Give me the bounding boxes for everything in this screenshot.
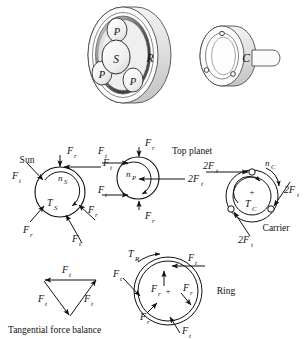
ring-label-fr-lowerleft-sub: r	[147, 318, 150, 326]
planet-label-fr-top-sub: r	[152, 144, 155, 152]
planet-label-2ft-right: 2F t	[188, 173, 204, 188]
triangle-label-ft-left: F t	[37, 293, 48, 308]
assembly-planet-top-label: P	[113, 26, 121, 37]
assembly-planet-lower-right-label: P	[129, 76, 137, 87]
sun-torque-label-main: T	[47, 197, 54, 208]
triangle-label-ft-left-main: F	[37, 293, 45, 304]
sun-free-body-diagram: Sun F r F t F t F r F r F	[11, 145, 113, 248]
ring-torque-label: T R	[128, 248, 140, 263]
ring-label-ft-top: F t	[187, 252, 198, 267]
planet-label-fr-top: F r	[144, 137, 155, 152]
planet-label-fr-top-main: F	[144, 137, 152, 148]
sun-speed-label: n S	[58, 173, 68, 185]
assembly-planet-lower-left-label: P	[98, 69, 106, 80]
ring-force-arrow-ft-left	[123, 278, 140, 296]
triangle-label-ft-right-sub: t	[91, 300, 94, 308]
carrier-label-2ft-right: 2F t	[284, 184, 300, 199]
planet-label-fr-bottom-main: F	[144, 210, 152, 221]
carrier-fbd-pin-top	[249, 169, 255, 175]
ring-label-ft-bottom: F t	[181, 325, 192, 339]
carrier-speed-arc	[266, 168, 279, 186]
ring-label-fr-rightinner-sub: r	[190, 289, 193, 297]
planet-diagram-title: Top planet	[172, 146, 213, 156]
sun-label-ft-bottom-main: F	[71, 233, 79, 244]
figure-root: P P P S R	[0, 0, 304, 339]
carrier-label-2ft-right-sub: t	[297, 191, 300, 199]
ring-label-ft-left-sub: t	[120, 275, 123, 283]
ring-label-fr-topinner-sub: r	[158, 290, 161, 298]
carrier-free-body-diagram: Carrier 2F t 2F t 2F t n C + T C	[203, 158, 300, 249]
ring-label-ft-top-main: F	[187, 252, 195, 263]
sun-label-ft-left-main: F	[11, 170, 19, 181]
sun-speed-label-sub: S	[64, 178, 68, 185]
planet-label-ft-lowerleft-main: F	[97, 184, 105, 195]
sun-torque-label: T S	[47, 197, 58, 212]
sun-label-ft-bottom: F t	[71, 233, 82, 248]
sun-force-arrow-ft-left	[27, 163, 43, 180]
sun-label-fr-top-main: F	[66, 145, 74, 156]
carrier-speed-label-main: n	[265, 158, 270, 168]
assembly-planet-top: P	[107, 18, 127, 42]
carrier-fbd-pin-right	[268, 206, 274, 212]
triangle-arrow-left	[44, 281, 69, 315]
carrier-force-arrow-2ft-bottom	[234, 212, 250, 236]
sun-label-fr-top-sub: r	[74, 152, 77, 160]
carrier-speed-label-sub: C	[271, 163, 276, 170]
triangle-label-ft-left-sub: t	[45, 300, 48, 308]
carrier-output-shaft	[252, 50, 280, 66]
ring-label-ft-bottom-main: F	[181, 325, 189, 336]
planetary-gear-figure: P P P S R	[0, 0, 304, 339]
carrier-fbd-pin-left	[228, 206, 234, 212]
planet-label-2ft-right-sub: t	[201, 180, 204, 188]
carrier-pin-hole-right	[231, 72, 236, 77]
triangle-label-ft-top: F t	[61, 264, 72, 279]
triangle-label-ft-top-sub: t	[69, 271, 72, 279]
ring-label-fr-topinner: F r	[150, 283, 161, 298]
planet-free-body-diagram: Top planet F t F r F t F r 2F t n	[97, 137, 212, 225]
assembly-sun-gear: S	[102, 40, 130, 74]
triangle-label-ft-top-main: F	[61, 264, 69, 275]
planet-speed-label-sub: P	[131, 174, 136, 181]
assembly-ring-sun-planets: P P P S R	[88, 7, 171, 103]
assembly-ring-label: R	[145, 52, 153, 64]
ring-label-fr-lowerleft-main: F	[139, 311, 147, 322]
carrier-torque-label: T C	[245, 198, 257, 213]
ring-diagram-title: Ring	[217, 286, 236, 296]
triangle-arrow-right	[70, 280, 96, 316]
planet-label-fr-bottom-sub: r	[152, 217, 155, 225]
ring-torque-arc	[138, 254, 160, 262]
sun-label-fr-top: F r	[66, 145, 77, 160]
carrier-label-2ft-bottom-main: 2F	[238, 234, 250, 245]
sun-force-arrow-fr-lowerleft	[30, 206, 44, 222]
carrier-label-2ft-top-sub: t	[216, 167, 219, 175]
sun-label-fr-lowerleft-main: F	[22, 224, 30, 235]
sun-label-fr-right: F r	[87, 204, 98, 219]
assembly-carrier-part: C	[200, 26, 280, 86]
carrier-label-2ft-right-main: 2F	[284, 184, 296, 195]
planet-speed-label-main: n	[126, 169, 131, 179]
sun-label-ft-topright-sub: t	[110, 164, 113, 172]
ring-label-fr-rightinner: F r	[182, 282, 193, 297]
planet-label-2ft-right-main: 2F	[188, 173, 200, 184]
sun-label-ft-left: F t	[11, 170, 22, 185]
carrier-diagram-title: Carrier	[263, 223, 291, 233]
ring-force-arrow-fr-lowerleft	[147, 303, 157, 313]
sun-diagram-title: Sun	[20, 155, 35, 165]
ring-free-body-diagram: Ring T R F t F r F t F r F	[112, 248, 235, 339]
ring-label-ft-left-main: F	[112, 268, 120, 279]
carrier-label-2ft-top: 2F t	[203, 160, 219, 175]
carrier-torque-label-main: T	[245, 198, 252, 209]
sun-speed-label-main: n	[58, 173, 63, 183]
planet-label-fr-bottom: F r	[144, 210, 155, 225]
assembly-sun-label: S	[113, 53, 119, 65]
sun-label-ft-left-sub: t	[19, 177, 22, 185]
sun-label-fr-right-sub: r	[95, 211, 98, 219]
sun-label-ft-topright: F t	[102, 157, 113, 172]
sun-label-fr-lowerleft-sub: r	[30, 231, 33, 239]
sun-label-fr-right-main: F	[87, 204, 95, 215]
sun-label-ft-bottom-sub: t	[79, 240, 82, 248]
planet-label-ft-upperleft-main: F	[97, 145, 105, 156]
sun-label-fr-lowerleft: F r	[22, 224, 33, 239]
ring-label-fr-rightinner-main: F	[182, 282, 190, 293]
triangle-label-ft-right: F t	[83, 293, 94, 308]
